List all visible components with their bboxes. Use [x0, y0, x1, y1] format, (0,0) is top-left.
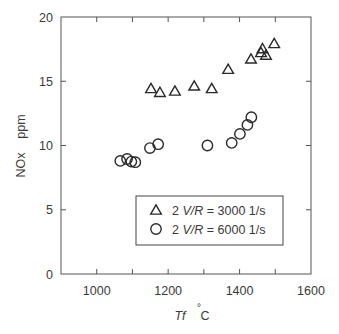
y-tick-label: 0 — [46, 268, 53, 282]
data-point-circle — [235, 129, 245, 139]
legend-label: 2 V/R = 6000 1/s — [172, 223, 265, 237]
x-axis-label-unit: C — [200, 309, 209, 323]
x-axis-label-variable: Tf — [174, 309, 187, 323]
series-circle — [115, 112, 256, 167]
data-point-triangle — [206, 83, 217, 92]
y-tick-label: 5 — [46, 203, 53, 217]
data-point-triangle — [223, 64, 234, 73]
x-tick-label: 1000 — [83, 284, 111, 298]
x-axis-label: Tf ° C — [174, 302, 209, 323]
y-axis-label: NOx ppm — [14, 114, 28, 177]
y-tick-label: 20 — [39, 11, 53, 25]
legend-label: 2 V/R = 3000 1/s — [172, 204, 265, 218]
x-axis: 1000120014001600 — [83, 17, 325, 298]
data-point-circle — [202, 140, 212, 150]
x-tick-label: 1400 — [226, 284, 254, 298]
data-point-triangle — [170, 86, 181, 95]
y-tick-label: 15 — [39, 75, 53, 89]
data-point-circle — [115, 156, 125, 166]
x-tick-label: 1200 — [154, 284, 182, 298]
x-tick-label: 1600 — [297, 284, 325, 298]
data-point-circle — [227, 138, 237, 148]
y-tick-label: 10 — [39, 139, 53, 153]
data-points — [115, 38, 279, 167]
nox-vs-temperature-scatter-chart: 1000120014001600 05101520 2 V/R = 3000 1… — [0, 0, 339, 334]
data-point-triangle — [269, 38, 280, 47]
data-point-circle — [153, 139, 163, 149]
data-point-triangle — [146, 83, 157, 92]
legend: 2 V/R = 3000 1/s2 V/R = 6000 1/s — [136, 196, 283, 245]
series-triangle — [146, 38, 280, 96]
data-point-triangle — [261, 50, 272, 59]
data-point-triangle — [189, 81, 200, 90]
data-point-triangle — [246, 54, 257, 63]
